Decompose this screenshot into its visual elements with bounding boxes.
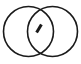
figure-canvas xyxy=(0,0,81,64)
venn-diagram xyxy=(0,0,81,64)
